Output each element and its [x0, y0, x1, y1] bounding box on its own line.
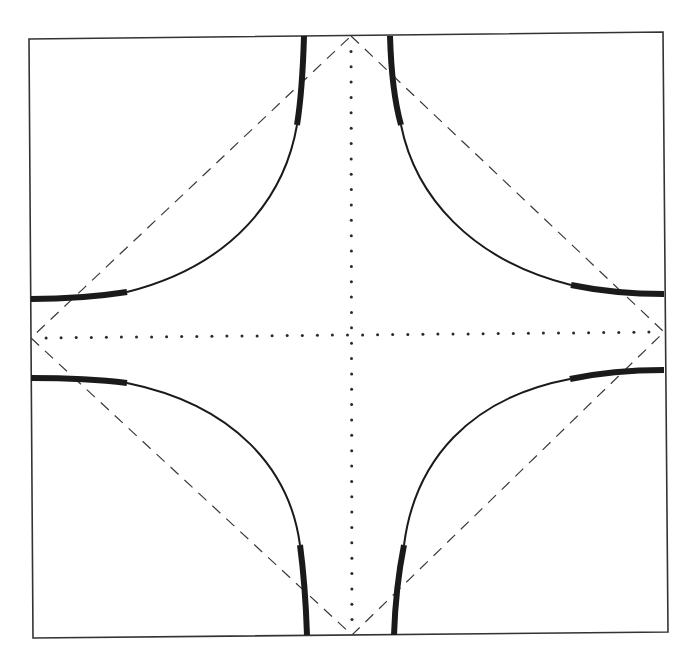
axis-dot: [350, 157, 353, 160]
axis-dot: [350, 234, 353, 237]
axis-dot: [271, 334, 274, 337]
axis-dot: [350, 296, 353, 299]
axis-dot: [350, 480, 353, 483]
axis-dot: [120, 336, 123, 339]
axis-dot: [350, 449, 353, 452]
axis-dot: [90, 336, 93, 339]
axis-dot: [301, 334, 304, 337]
axis-dot: [210, 335, 213, 338]
axis-dot: [350, 250, 353, 253]
axis-dot: [350, 280, 353, 283]
axis-dot: [632, 331, 635, 334]
axis-dot: [557, 332, 560, 335]
axis-dot: [350, 342, 353, 345]
diagram-canvas: [0, 0, 689, 665]
axis-dot: [350, 372, 353, 375]
axis-dot: [452, 333, 455, 336]
axis-dot: [350, 587, 353, 590]
axis-dot: [572, 331, 575, 334]
axis-dot: [346, 334, 349, 337]
axis-dot: [195, 335, 198, 338]
axis-dot: [135, 336, 138, 339]
axis-dot: [45, 336, 48, 339]
axis-dot: [482, 332, 485, 335]
axis-dot: [350, 96, 353, 99]
axis-dot: [60, 336, 63, 339]
axis-dot: [350, 495, 353, 498]
axis-dot: [376, 333, 379, 336]
axis-dot: [180, 335, 183, 338]
axis-dot: [350, 65, 353, 68]
axis-dot: [350, 173, 353, 176]
axis-dot: [350, 357, 353, 360]
axis-dot: [361, 333, 364, 336]
background: [0, 0, 689, 665]
axis-dot: [350, 326, 353, 329]
axis-dot: [617, 331, 620, 334]
axis-dot: [350, 557, 353, 560]
axis-dot: [286, 334, 289, 337]
axis-dot: [602, 331, 605, 334]
axis-dot: [350, 203, 353, 206]
axis-dot: [647, 331, 650, 334]
axis-dot: [350, 603, 353, 606]
axis-dot: [542, 332, 545, 335]
axis-dot: [225, 335, 228, 338]
axis-dot: [587, 331, 590, 334]
axis-dot: [350, 434, 353, 437]
axis-dot: [165, 335, 168, 338]
axis-dot: [497, 332, 500, 335]
axis-dot: [350, 81, 353, 84]
axis-dot: [350, 403, 353, 406]
axis-dot: [467, 332, 470, 335]
axis-dot: [241, 335, 244, 338]
axis-dot: [350, 142, 353, 145]
axis-dot: [350, 127, 353, 130]
axis-dot: [331, 334, 334, 337]
axis-dot: [75, 336, 78, 339]
axis-dot: [350, 388, 353, 391]
axis-dot: [350, 111, 353, 114]
axis-dot: [350, 465, 353, 468]
hyperbola-diagram: [0, 0, 689, 665]
axis-dot: [350, 541, 353, 544]
axis-dot: [350, 526, 353, 529]
axis-dot: [527, 332, 530, 335]
axis-dot: [350, 419, 353, 422]
axis-dot: [350, 265, 353, 268]
axis-dot: [391, 333, 394, 336]
axis-dot: [421, 333, 424, 336]
axis-dot: [350, 219, 353, 222]
axis-dot: [350, 311, 353, 314]
axis-dot: [350, 511, 353, 514]
axis-dot: [436, 333, 439, 336]
axis-dot: [256, 334, 259, 337]
axis-dot: [105, 336, 108, 339]
axis-dot: [350, 50, 353, 53]
axis-dot: [350, 188, 353, 191]
axis-dot: [150, 335, 153, 338]
axis-dot: [350, 572, 353, 575]
axis-dot: [406, 333, 409, 336]
axis-dot: [316, 334, 319, 337]
axis-dot: [351, 618, 354, 621]
axis-dot: [512, 332, 515, 335]
